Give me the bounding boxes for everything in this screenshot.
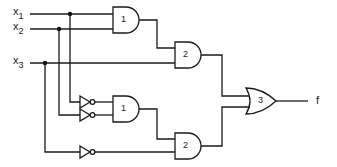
gate-label-and-1-bottom: 1: [121, 104, 126, 113]
gate-label-and-2-bottom: 2: [183, 141, 188, 150]
not-bubble-x3: [90, 150, 95, 155]
wire-and1b-to-and2b: [139, 109, 175, 139]
wire-and2b-to-or: [201, 107, 250, 146]
output-label-f: f: [316, 95, 319, 106]
not-bubble-x1: [90, 100, 95, 105]
circuit-wiring: [0, 0, 337, 167]
not-gate-x3: [80, 146, 90, 158]
not-gate-x1: [80, 96, 90, 108]
not-gate-x2: [80, 109, 90, 121]
input-label-x1: x1: [13, 6, 24, 20]
gate-label-and-1-top: 1: [121, 15, 126, 24]
not-bubble-x2: [90, 113, 95, 118]
wire-and1-to-and2: [139, 20, 175, 48]
wire-x3-to-not: [45, 63, 80, 152]
wire-x1-to-not: [70, 14, 80, 102]
wire-and2-to-or: [201, 55, 250, 96]
logic-circuit-diagram: x1 x2 x3 1 2 3 1 2 f: [0, 0, 337, 167]
gate-label-and-2-top: 2: [183, 50, 188, 59]
input-label-x2: x2: [13, 21, 24, 35]
input-label-x3: x3: [13, 55, 24, 69]
gate-label-or-3: 3: [258, 96, 263, 105]
